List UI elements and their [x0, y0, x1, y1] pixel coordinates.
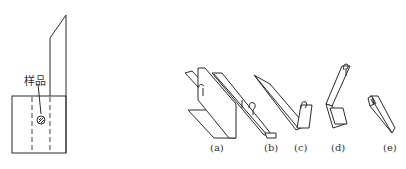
fold-variant-a: [185, 68, 236, 138]
fold-variant-d: [326, 64, 350, 128]
caption-c: (c): [294, 142, 307, 153]
strip-b-foot: [265, 133, 276, 138]
fold-variant-c: [254, 75, 312, 130]
caption-a: (a): [210, 142, 224, 153]
holder-strip: [50, 15, 66, 153]
sample-label: 样品: [24, 72, 46, 88]
leader-line: [38, 84, 41, 114]
caption-d: (d): [331, 142, 345, 153]
diagram-figure: 样品 (a) (b) (c) (d) (e): [0, 0, 406, 169]
caption-e: (e): [383, 142, 397, 153]
fold-variant-e: [368, 96, 395, 133]
caption-b: (b): [264, 142, 278, 153]
strip-c-flap: [297, 105, 312, 128]
strip-c-edge: [255, 76, 298, 128]
holder-base: [12, 96, 66, 153]
